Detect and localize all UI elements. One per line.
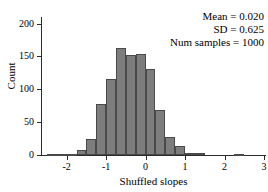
- histogram-bar: [106, 79, 116, 155]
- x-tick-mark: [225, 156, 226, 160]
- x-tick-label: 3: [254, 161, 268, 172]
- histogram-bar: [96, 104, 106, 155]
- x-tick-label: 0: [136, 161, 156, 172]
- x-tick-mark: [146, 156, 147, 160]
- histogram-bar: [126, 55, 136, 155]
- y-tick-mark: [37, 122, 41, 123]
- x-tick-label: -2: [57, 161, 77, 172]
- x-tick-mark: [106, 156, 107, 160]
- x-tick-label: 1: [175, 161, 195, 172]
- x-tick-mark: [185, 156, 186, 160]
- histogram-bar: [234, 154, 244, 156]
- histogram-bar: [77, 150, 87, 155]
- y-tick-label: 200: [19, 19, 34, 29]
- histogram-bar: [165, 137, 175, 155]
- x-axis-title: Shuffled slopes: [41, 175, 266, 187]
- histogram-bar: [57, 154, 67, 156]
- y-axis-title: Count: [5, 46, 17, 106]
- histogram-bar: [116, 48, 126, 155]
- y-tick-label: 150: [19, 51, 34, 61]
- x-tick-label: 2: [215, 161, 235, 172]
- histogram-bar: [47, 154, 57, 156]
- y-tick-label: 0: [29, 150, 34, 160]
- y-tick-mark: [37, 155, 41, 156]
- y-tick-mark: [37, 24, 41, 25]
- histogram-bar: [155, 110, 165, 155]
- histogram-bar: [146, 69, 156, 155]
- y-tick-mark: [37, 89, 41, 90]
- histogram-bar: [185, 153, 195, 155]
- y-tick-label: 100: [19, 84, 34, 94]
- x-tick-label: -1: [96, 161, 116, 172]
- histogram-bar: [67, 154, 77, 156]
- x-tick-mark: [67, 156, 68, 160]
- histogram-chart: Mean = 0.020 SD = 0.625 Num samples = 10…: [0, 0, 268, 192]
- histogram-bar: [136, 54, 146, 155]
- histogram-bar: [195, 153, 205, 155]
- y-tick-mark: [37, 56, 41, 57]
- y-tick-label: 50: [24, 117, 34, 127]
- histogram-bar: [175, 146, 185, 155]
- x-tick-mark: [264, 156, 265, 160]
- histogram-bar: [86, 139, 96, 155]
